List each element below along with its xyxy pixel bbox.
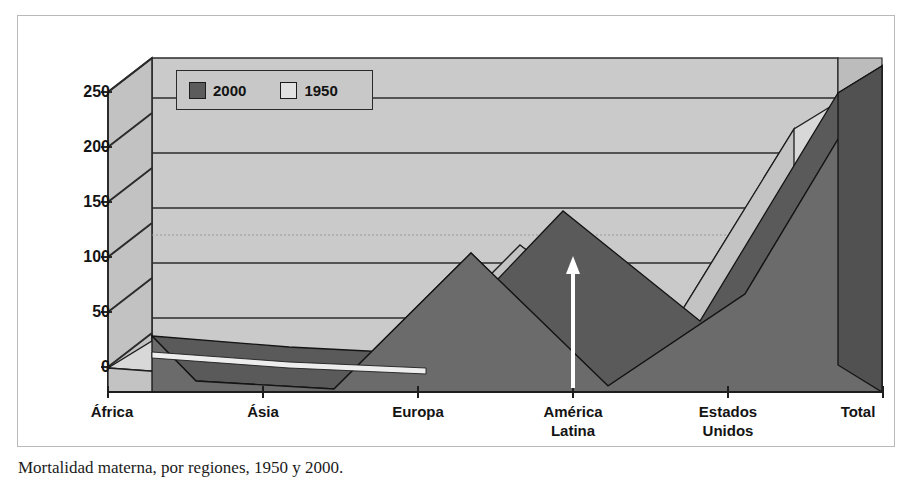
x-tick-europa: Europa	[353, 403, 483, 422]
x-tick-total: Total	[808, 403, 908, 422]
chart-legend: 2000 1950	[176, 70, 373, 110]
x-tick-america-latina: América Latina	[503, 403, 643, 441]
legend-label-2000: 2000	[213, 83, 246, 98]
legend-label-1950: 1950	[304, 83, 337, 98]
x-tick-africa: África	[52, 403, 172, 422]
x-tick-asia: Ásia	[203, 403, 323, 422]
chart-3d-area: 250 200 150 100 50 0 África Ásia Europa …	[0, 0, 916, 480]
figure-caption: Mortalidad materna, por regiones, 1950 y…	[18, 458, 878, 478]
legend-swatch-2000	[189, 82, 206, 99]
legend-item-2000: 2000	[189, 82, 246, 99]
legend-item-1950: 1950	[280, 82, 337, 99]
x-tick-estados-unidos: Estados Unidos	[658, 403, 798, 441]
figure-page: 250 200 150 100 50 0 África Ásia Europa …	[0, 0, 916, 480]
x-axis-labels: África Ásia Europa América Latina Estado…	[0, 0, 916, 480]
legend-swatch-1950	[280, 82, 297, 99]
